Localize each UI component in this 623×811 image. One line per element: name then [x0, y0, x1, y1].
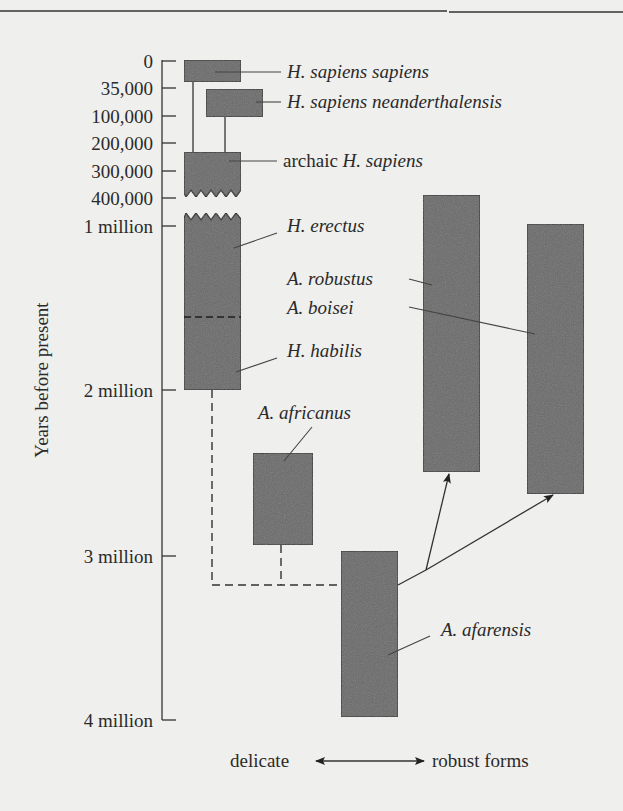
link-afarensis-trunk [398, 570, 426, 585]
leader-habilis [236, 358, 277, 372]
y-tick-labels: 0 35,000 100,000 200,000 300,000 400,000… [84, 51, 154, 731]
label-h-erectus: H. erectus [286, 215, 364, 236]
tick-label: 0 [144, 51, 154, 72]
label-h-habilis: H. habilis [286, 340, 362, 361]
bar-h-sapiens-neanderthalensis [206, 89, 263, 117]
y-axis [162, 60, 176, 720]
bar-h-erectus-habilis [184, 213, 241, 390]
label-robust-forms: robust forms [432, 750, 529, 771]
bar-a-boisei [527, 224, 584, 494]
hominid-timeline-figure: 0 35,000 100,000 200,000 300,000 400,000… [0, 0, 623, 811]
label-a-afarensis: A. afarensis [439, 619, 531, 640]
tick-label: 35,000 [101, 78, 153, 99]
label-delicate: delicate [230, 750, 289, 771]
arrow-afarensis-to-boisei [426, 495, 553, 570]
tick-label: 300,000 [91, 161, 153, 182]
bar-archaic-h-sapiens [184, 152, 241, 197]
tick-label: 4 million [84, 710, 154, 731]
tick-label: 1 million [84, 216, 154, 237]
bottom-axis: delicate robust forms [230, 750, 529, 771]
label-a-robustus: A. robustus [285, 268, 373, 289]
label-h-sapiens-sapiens: H. sapiens sapiens [286, 61, 429, 82]
label-a-africanus: A. africanus [256, 402, 351, 423]
bar-h-sapiens-sapiens [184, 60, 241, 82]
y-axis-title: Years before present [31, 302, 52, 458]
bar-a-afarensis [341, 551, 398, 717]
bar-a-africanus [253, 453, 313, 545]
label-archaic-h-sapiens: archaic H. sapiens [283, 150, 423, 171]
tick-label: 100,000 [91, 106, 153, 127]
tick-label: 2 million [84, 380, 154, 401]
bar-a-robustus [423, 195, 480, 472]
label-h-sapiens-neanderthalensis: H. sapiens neanderthalensis [286, 91, 502, 112]
tick-label: 200,000 [91, 133, 153, 154]
label-a-boisei: A. boisei [285, 297, 354, 318]
arrow-afarensis-to-robustus [426, 474, 449, 570]
tick-label: 400,000 [91, 188, 153, 209]
tick-label: 3 million [84, 546, 154, 567]
